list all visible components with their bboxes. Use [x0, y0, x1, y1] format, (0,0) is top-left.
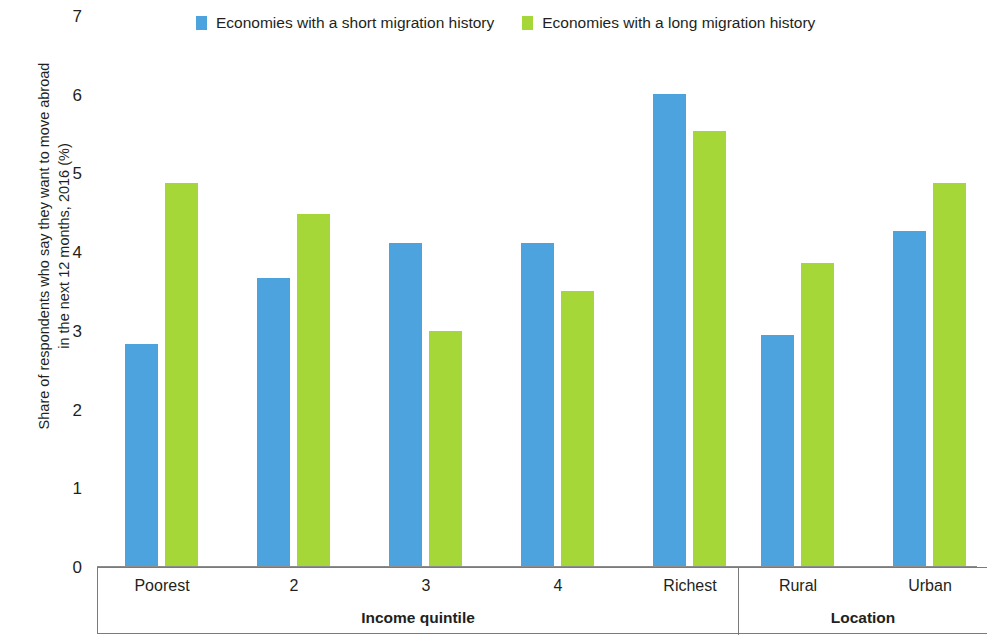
y-tick-label: 4: [58, 244, 82, 261]
bar-long-migration: [297, 214, 330, 566]
category-axis: Poorest234RichestRuralUrbanIncome quinti…: [97, 567, 987, 634]
category-tick-label: Poorest: [134, 578, 189, 594]
bar-short-migration: [125, 344, 158, 566]
category-tick-label: 4: [554, 578, 563, 594]
category-tick-label: Richest: [663, 578, 716, 594]
bar-long-migration: [693, 131, 726, 566]
category-tick-label: 2: [290, 578, 299, 594]
y-tick-label: 6: [58, 86, 82, 103]
category-tick-label: 3: [422, 578, 431, 594]
bar-long-migration: [429, 331, 462, 566]
y-tick-label: 3: [58, 322, 82, 339]
bar-group: [125, 15, 201, 566]
bar-short-migration: [521, 243, 554, 566]
bar-short-migration: [389, 243, 422, 566]
bar-long-migration: [165, 183, 198, 566]
bar-long-migration: [933, 183, 966, 566]
bar-group: [521, 15, 597, 566]
y-tick-label: 5: [58, 165, 82, 182]
bar-group: [761, 15, 837, 566]
y-tick-label: 0: [58, 559, 82, 576]
y-tick-label: 7: [58, 8, 82, 25]
y-axis-ticks: 01234567: [58, 0, 82, 634]
bar-short-migration: [653, 94, 686, 566]
bar-group: [257, 15, 333, 566]
bar-group: [653, 15, 729, 566]
bar-short-migration: [257, 278, 290, 566]
bar-group: [893, 15, 969, 566]
bar-group: [389, 15, 465, 566]
bar-long-migration: [561, 291, 594, 566]
category-group-title: Income quintile: [361, 610, 475, 626]
bar-long-migration: [801, 263, 834, 566]
y-tick-label: 1: [58, 480, 82, 497]
bar-short-migration: [893, 231, 926, 566]
bar-short-migration: [761, 335, 794, 566]
y-axis-title-line-1: Share of respondents who say they want t…: [34, 16, 54, 476]
plot-area: [97, 16, 977, 567]
category-group-divider: [738, 568, 739, 635]
category-tick-label: Urban: [908, 578, 952, 594]
category-group-title: Location: [831, 610, 896, 626]
category-tick-label: Rural: [779, 578, 817, 594]
y-tick-label: 2: [58, 401, 82, 418]
